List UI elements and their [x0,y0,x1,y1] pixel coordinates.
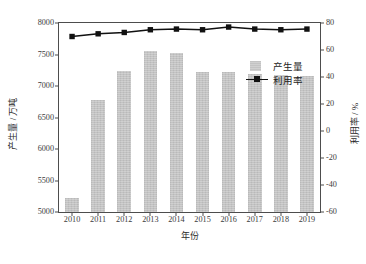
x-tick-2012: 2012 [116,216,132,224]
y-tick-left-6000: 6000 [38,145,54,153]
y-tick-left-5000: 5000 [38,208,54,216]
y-tick-right--40: -40 [326,181,337,189]
y-axis-left-title: 产生量 / 万吨 [6,69,19,179]
x-tick-2014: 2014 [168,216,184,224]
legend-label-produced-amount: 产生量 [269,59,303,73]
legend-item-utilization-rate: 利用率 [245,73,337,87]
y-axis-right-tick-labels: -60-40-20020406080 [326,22,352,213]
line-marker-swatch-icon [245,73,269,87]
y-tick-right--60: -60 [326,208,337,216]
plot-area: 产生量 利用率 [58,22,321,213]
x-tick-2013: 2013 [142,216,158,224]
y-tick-left-7000: 7000 [38,82,54,90]
marker-2015 [200,27,205,32]
y-tick-right-80: 80 [326,19,334,27]
marker-2010 [69,34,74,39]
y-tick-right--20: -20 [326,154,337,162]
marker-2012 [122,30,127,35]
y-tick-left-5500: 5500 [38,176,54,184]
marker-2017 [252,26,257,31]
chart-legend: 产生量 利用率 [245,59,337,87]
marker-2019 [304,26,309,31]
marker-2016 [226,24,231,29]
y-tick-right-20: 20 [326,100,334,108]
x-tick-2016: 2016 [220,216,236,224]
marker-2011 [95,31,100,36]
x-tick-2010: 2010 [64,216,80,224]
x-tick-2015: 2015 [194,216,210,224]
marker-2018 [278,27,283,32]
x-tick-2017: 2017 [247,216,263,224]
x-axis-title: 年份 [58,229,321,242]
line-series-utilization-rate [59,23,320,212]
x-tick-2011: 2011 [90,216,106,224]
y-tick-right-60: 60 [326,46,334,54]
bar-swatch-icon [245,59,269,73]
legend-item-produced-amount: 产生量 [245,59,337,73]
utilization-line-path [72,27,307,36]
y-axis-left-tick-labels: 5000550060006500700075008000 [24,22,54,213]
x-tick-2018: 2018 [273,216,289,224]
y-tick-left-7500: 7500 [38,50,54,58]
y-tick-left-8000: 8000 [38,19,54,27]
x-axis-tick-labels: 2010201120122013201420152016201720182019 [58,216,321,230]
legend-label-utilization-rate: 利用率 [269,73,303,87]
marker-2013 [148,27,153,32]
y-tick-left-6500: 6500 [38,113,54,121]
marker-2014 [174,26,179,31]
x-tick-2019: 2019 [299,216,315,224]
chart-figure: 产生量 / 万吨 利用率 / % 年份 50005500600065007000… [0,0,366,264]
y-tick-right-0: 0 [326,127,330,135]
